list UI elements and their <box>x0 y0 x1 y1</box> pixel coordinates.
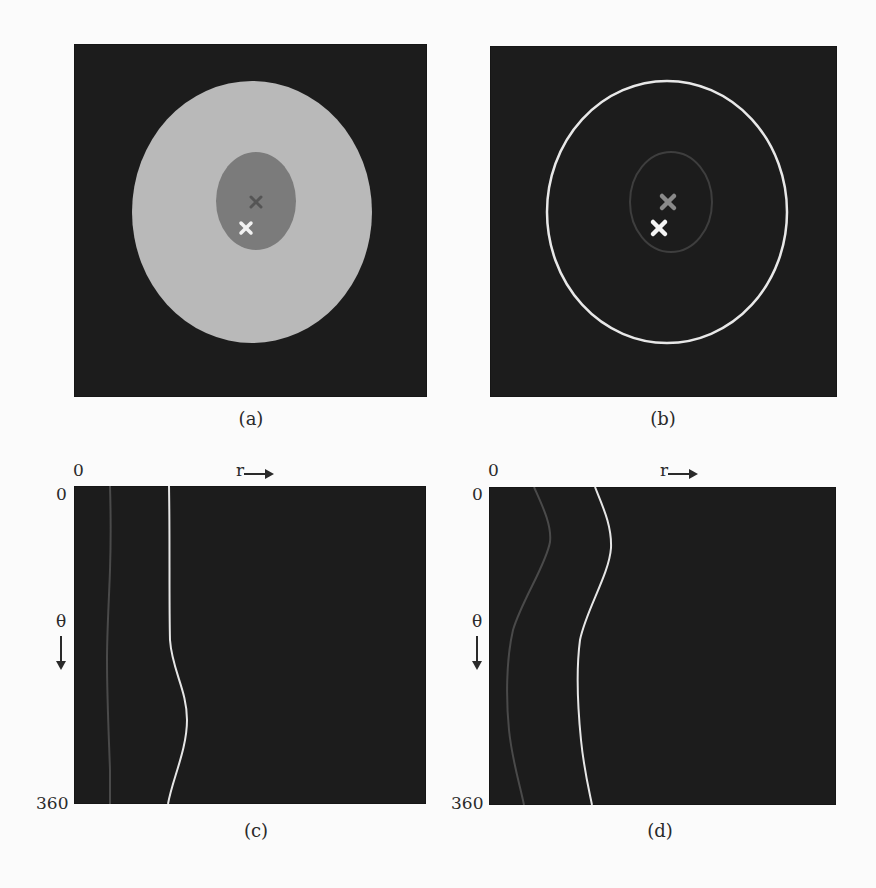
caption-c: (c) <box>244 820 268 841</box>
panel-a-svg <box>74 44 427 397</box>
caption-b: (b) <box>650 408 676 429</box>
theta-origin-label-d: 0 <box>472 486 483 503</box>
r-axis-label-c: r <box>236 462 244 479</box>
r-origin-label-c: 0 <box>73 462 84 479</box>
panel-a-image <box>74 44 427 397</box>
panel-c-svg <box>74 486 426 804</box>
r-arrow-icon <box>668 473 696 475</box>
outer-boundary-curve <box>168 486 187 804</box>
theta-axis-label-d: θ <box>472 613 482 630</box>
caption-d: (d) <box>647 820 673 841</box>
outer-boundary <box>547 81 787 343</box>
theta-origin-label-c: 0 <box>56 486 67 503</box>
panel-b-image <box>490 46 837 397</box>
r-arrow-icon <box>244 473 272 475</box>
theta-end-label-d: 360 <box>451 795 483 812</box>
r-axis-label-d: r <box>660 462 668 479</box>
panel-d-image <box>489 487 836 805</box>
theta-axis-label-c: θ <box>56 613 66 630</box>
white-cross-icon <box>653 222 665 234</box>
gray-cross-icon <box>662 196 674 208</box>
inner-boundary-curve <box>107 486 111 804</box>
panel-c-image <box>74 486 426 804</box>
inner-boundary-curve <box>507 487 550 805</box>
caption-a: (a) <box>239 408 264 429</box>
theta-end-label-c: 360 <box>36 795 68 812</box>
theta-arrow-icon <box>476 636 478 668</box>
panel-d-svg <box>489 487 836 805</box>
outer-boundary-curve <box>578 487 611 805</box>
theta-arrow-icon <box>60 636 62 668</box>
r-origin-label-d: 0 <box>488 462 499 479</box>
panel-b-svg <box>490 46 837 397</box>
